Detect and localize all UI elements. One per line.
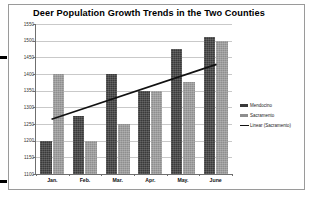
y-axis-tick: 1350 bbox=[6, 88, 34, 93]
page-edge-mark-bottom bbox=[0, 180, 7, 183]
x-axis-tick-label: May. bbox=[167, 176, 200, 184]
x-axis-tick-mark bbox=[101, 174, 102, 176]
x-axis-tick-mark bbox=[69, 174, 70, 176]
y-axis-tick: 1500 bbox=[6, 38, 34, 43]
legend-item: Sacramento bbox=[240, 111, 306, 120]
y-axis-tick-label: 1450 bbox=[8, 55, 34, 60]
x-axis-tick-mark bbox=[167, 174, 168, 176]
y-axis-tick: 1450 bbox=[6, 55, 34, 60]
y-axis-tick: 1550 bbox=[6, 22, 34, 27]
y-axis-tick-label: 1550 bbox=[8, 22, 34, 27]
x-axis-tick-label: Mar. bbox=[101, 176, 134, 184]
chart-legend: MendocinoSacramentoLinear (Sacramento) bbox=[240, 101, 306, 135]
y-axis-tick: 1150 bbox=[6, 155, 34, 160]
y-axis-tick-label: 1350 bbox=[8, 88, 34, 93]
plot-area bbox=[36, 24, 232, 174]
x-axis-tick-label: Apr. bbox=[134, 176, 167, 184]
legend-swatch-icon bbox=[240, 125, 249, 126]
x-axis-tick-label: Jan. bbox=[36, 176, 69, 184]
y-axis-labels: 1550150014501400135013001250120011501100 bbox=[6, 24, 34, 175]
y-axis-tick: 1300 bbox=[6, 105, 34, 110]
y-axis-tick: 1200 bbox=[6, 138, 34, 143]
legend-label: Sacramento bbox=[250, 111, 274, 120]
y-axis-tick-label: 1100 bbox=[8, 172, 34, 177]
chart-screenshot: Deer Population Growth Trends in the Two… bbox=[0, 0, 312, 200]
x-axis-tick-mark bbox=[199, 174, 200, 176]
legend-label: Mendocino bbox=[250, 101, 272, 110]
trendline-linear-sacramento bbox=[36, 24, 232, 174]
y-axis-tick-label: 1250 bbox=[8, 122, 34, 127]
x-axis-tick-mark bbox=[232, 174, 233, 176]
y-axis-tick-label: 1200 bbox=[8, 138, 34, 143]
x-axis-tick-label: Feb. bbox=[69, 176, 102, 184]
x-axis-labels: Jan.Feb.Mar.Apr.May.June bbox=[36, 176, 232, 188]
legend-swatch-icon bbox=[240, 114, 248, 117]
legend-swatch-icon bbox=[240, 104, 248, 107]
x-axis-tick-mark bbox=[134, 174, 135, 176]
y-axis-tick-label: 1400 bbox=[8, 72, 34, 77]
y-axis-tick: 1400 bbox=[6, 72, 34, 77]
y-axis-tick-label: 1500 bbox=[8, 38, 34, 43]
y-axis-tick-label: 1150 bbox=[8, 155, 34, 160]
x-axis-tick-mark bbox=[36, 174, 37, 176]
legend-label: Linear (Sacramento) bbox=[250, 121, 291, 130]
legend-item: Linear (Sacramento) bbox=[240, 121, 306, 130]
y-axis-tick: 1250 bbox=[6, 122, 34, 127]
legend-item: Mendocino bbox=[240, 101, 306, 110]
x-axis-tick-label: June bbox=[199, 176, 232, 184]
y-axis-tick-label: 1300 bbox=[8, 105, 34, 110]
chart-title: Deer Population Growth Trends in the Two… bbox=[24, 6, 274, 20]
y-axis-tick: 1100 bbox=[6, 172, 34, 177]
